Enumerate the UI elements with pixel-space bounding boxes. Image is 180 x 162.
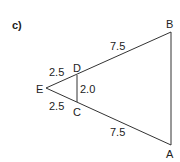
vertex-a-label: A [166,148,174,160]
diagram-canvas: c) B A E D C 2.5 2.5 7.5 7.5 2.0 [0,0,180,162]
measure-db: 7.5 [110,40,125,52]
vertex-e-label: E [36,83,43,95]
side-eb [46,32,171,88]
side-ea [46,88,171,145]
measure-ed: 2.5 [49,66,64,78]
vertex-c-label: C [73,106,81,118]
triangle-diagram: c) B A E D C 2.5 2.5 7.5 7.5 2.0 [0,0,180,162]
measure-dc: 2.0 [80,83,95,95]
part-label: c) [12,19,22,31]
measure-ca: 7.5 [110,126,125,138]
vertex-b-label: B [166,18,173,30]
measure-ec: 2.5 [49,100,64,112]
vertex-d-label: D [73,62,81,74]
